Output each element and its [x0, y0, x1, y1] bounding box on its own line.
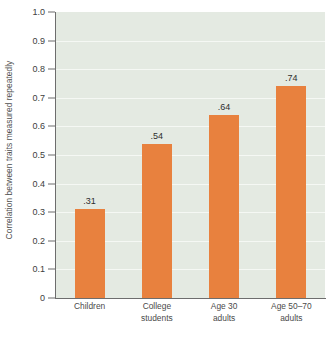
- bar-group: .54: [123, 12, 190, 298]
- bar-group: .31: [56, 12, 123, 298]
- x-axis-category-label: Collegestudents: [141, 301, 173, 324]
- y-axis-tick-label: 0: [40, 293, 45, 303]
- bar-value-label: .64: [218, 102, 231, 112]
- bars-layer: .31.54.64.74: [56, 12, 325, 298]
- y-axis-title-text: Correlation between traits measured repe…: [4, 61, 14, 240]
- y-axis-tick-label: 0.9: [32, 36, 45, 46]
- y-axis-tick-label: 1.0: [32, 7, 45, 17]
- y-axis-tick-label: 0.6: [32, 121, 45, 131]
- bar-group: .74: [258, 12, 325, 298]
- bar-value-label: .31: [83, 196, 96, 206]
- y-axis-tick-label: 0.2: [32, 236, 45, 246]
- y-axis-tick-label: 0.3: [32, 207, 45, 217]
- y-axis-tick-marks: [48, 12, 55, 298]
- y-axis-tick-mark: [48, 240, 55, 241]
- x-axis-category-label: Age 30adults: [211, 301, 238, 324]
- bar[interactable]: [276, 86, 306, 298]
- y-axis-tick-mark: [48, 183, 55, 184]
- bar[interactable]: [209, 115, 239, 298]
- y-axis-tick-mark: [48, 97, 55, 98]
- x-axis-category-label: Children: [74, 301, 105, 313]
- x-axis-category-label: Age 50–70adults: [271, 301, 312, 324]
- y-axis-tick-mark: [48, 40, 55, 41]
- bar-chart-figure: Correlation between traits measured repe…: [0, 0, 332, 337]
- y-axis-tick-mark: [48, 12, 55, 13]
- y-axis-tick-mark: [48, 269, 55, 270]
- y-axis-tick-mark: [48, 126, 55, 127]
- bar-value-label: .74: [285, 73, 298, 83]
- y-axis-tick-mark: [48, 69, 55, 70]
- y-axis-tick-mark: [48, 212, 55, 213]
- y-axis-title: Correlation between traits measured repe…: [0, 0, 18, 300]
- x-axis-line: [55, 298, 326, 299]
- y-axis-tick-mark: [48, 298, 55, 299]
- y-axis-tick-label: 0.5: [32, 150, 45, 160]
- y-axis-tick-mark: [48, 155, 55, 156]
- bar[interactable]: [142, 144, 172, 298]
- y-axis-tick-label: 0.8: [32, 64, 45, 74]
- y-axis-tick-label: 0.4: [32, 179, 45, 189]
- bar[interactable]: [75, 209, 105, 298]
- bar-group: .64: [191, 12, 258, 298]
- x-axis-category-labels: ChildrenCollegestudentsAge 30adultsAge 5…: [56, 301, 325, 337]
- y-axis-tick-label: 0.7: [32, 93, 45, 103]
- y-axis-tick-label: 0.1: [32, 264, 45, 274]
- y-axis-tick-labels: 00.10.20.30.40.50.60.70.80.91.0: [18, 12, 48, 298]
- bar-value-label: .54: [151, 131, 164, 141]
